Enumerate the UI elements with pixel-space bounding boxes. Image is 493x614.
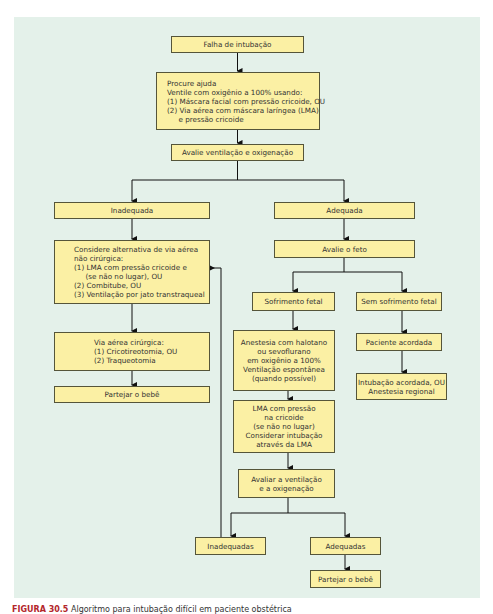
- node-label: Adequada: [326, 206, 362, 215]
- node-adequate-plural: Adequadas: [310, 537, 381, 555]
- node-label: Sofrimento fetal: [264, 297, 322, 306]
- node-deliver-baby-right: Partejar o bebê: [310, 570, 381, 588]
- node-label: LMA com pressão na cricoide (se não no l…: [246, 404, 323, 449]
- node-label: Considere alternativa de via aérea não c…: [74, 245, 205, 299]
- node-label: Inadequadas: [207, 542, 253, 551]
- node-call-for-help: Procure ajuda Ventile com oxigênio a 100…: [156, 72, 320, 130]
- node-reassess: Avaliar a ventilação e a oxigenação: [238, 469, 335, 498]
- node-label: Falha de intubação: [203, 40, 271, 49]
- node-label: Procure ajuda Ventile com oxigênio a 100…: [167, 79, 325, 124]
- node-deliver-baby-left: Partejar o bebê: [54, 386, 210, 403]
- node-lma-cricoid: LMA com pressão na cricoide (se não no l…: [233, 400, 335, 453]
- node-assess-ventilation: Avalie ventilação e oxigenação: [171, 144, 304, 161]
- node-label: Avalie ventilação e oxigenação: [182, 148, 293, 157]
- node-fetal-distress: Sofrimento fetal: [252, 292, 335, 311]
- node-surgical-airway: Via aérea cirúrgica: (1) Cricotireotomia…: [54, 332, 210, 371]
- node-inadequate-plural: Inadequadas: [195, 537, 266, 555]
- node-label: Sem sofrimento fetal: [361, 297, 437, 306]
- node-label: Partejar o bebê: [105, 390, 160, 399]
- node-no-fetal-distress: Sem sofrimento fetal: [356, 292, 442, 311]
- caption-text: Algoritmo para intubação difícil em paci…: [71, 605, 292, 614]
- node-assess-fetus: Avalie o feto: [274, 240, 415, 258]
- node-label: Avaliar a ventilação e a oxigenação: [251, 475, 322, 493]
- node-label: Inadequada: [111, 206, 154, 215]
- node-label: Intubação acordada, OU Anestesia regiona…: [358, 378, 445, 396]
- node-anesthesia: Anestesia com halotano ou sevoflurano em…: [233, 330, 335, 391]
- node-label: Adequadas: [325, 542, 365, 551]
- node-label: Via aérea cirúrgica: (1) Cricotireotomia…: [94, 338, 177, 365]
- node-label: Paciente acordada: [366, 338, 432, 347]
- node-adequate: Adequada: [274, 202, 415, 219]
- node-consider-nonsurgical: Considere alternativa de via aérea não c…: [54, 240, 210, 304]
- node-label: Anestesia com halotano ou sevoflurano em…: [241, 338, 327, 383]
- node-awake-patient: Paciente acordada: [356, 333, 442, 351]
- node-inadequate: Inadequada: [54, 202, 210, 219]
- figure-label: FIGURA 30.5: [12, 605, 68, 614]
- node-awake-intubation: Intubação acordada, OU Anestesia regiona…: [356, 373, 447, 400]
- node-failed-intubation: Falha de intubação: [171, 36, 304, 53]
- node-label: Avalie o feto: [322, 245, 367, 254]
- figure-caption: FIGURA 30.5 Algoritmo para intubação dif…: [12, 605, 292, 614]
- node-label: Partejar o bebê: [318, 575, 373, 584]
